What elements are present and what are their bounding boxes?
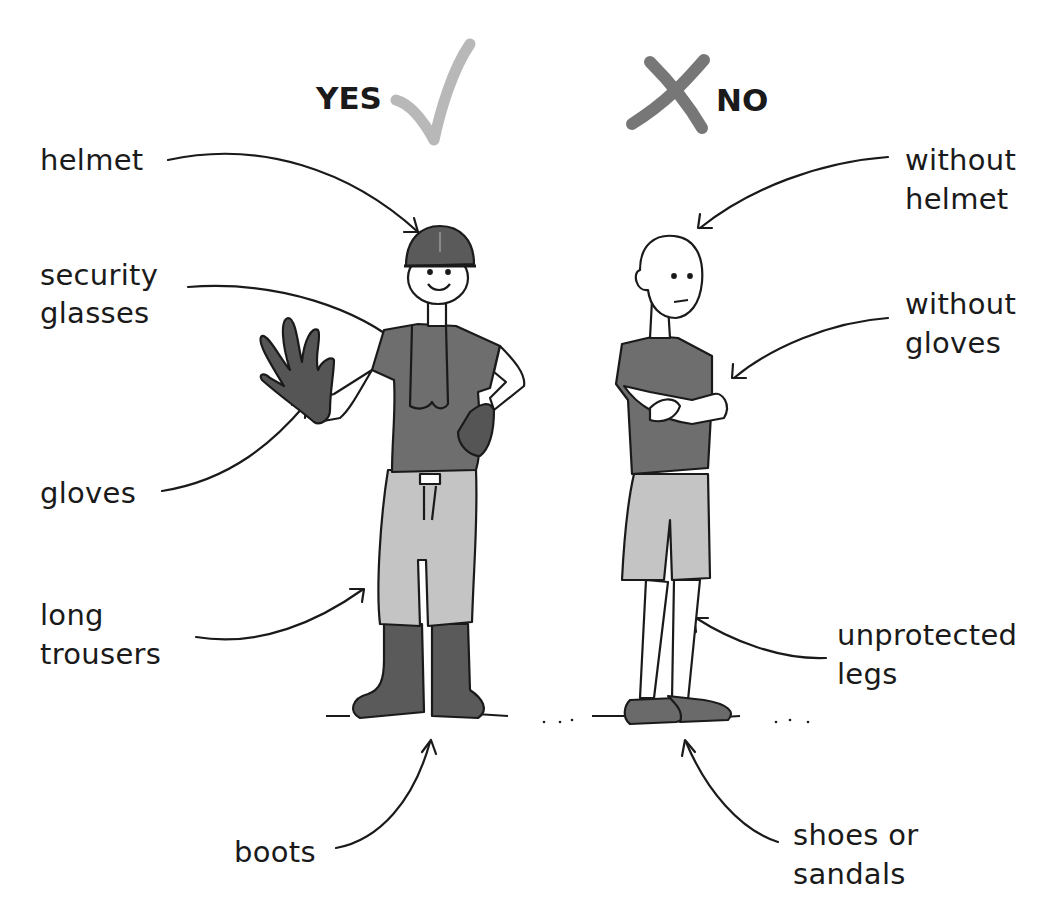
- arrow-without-gloves: [732, 318, 888, 378]
- unprotected-worker: [592, 236, 740, 724]
- cross-icon: [632, 60, 704, 128]
- arrow-gloves: [162, 404, 306, 491]
- glove-left: [260, 318, 334, 423]
- arrow-without-helmet: [698, 157, 888, 228]
- arrow-unprotected-legs: [694, 618, 826, 658]
- shorts: [622, 474, 710, 580]
- protected-worker: [260, 226, 524, 718]
- arrow-helmet: [168, 154, 418, 232]
- arrow-shoes: [682, 740, 778, 842]
- arrow-trousers: [196, 589, 364, 639]
- checkmark-icon: [396, 44, 470, 140]
- bare-legs: [640, 580, 700, 700]
- boots: [353, 624, 424, 718]
- illustration: [0, 0, 1064, 923]
- long-trousers: [378, 470, 476, 626]
- arrow-boots: [336, 740, 436, 848]
